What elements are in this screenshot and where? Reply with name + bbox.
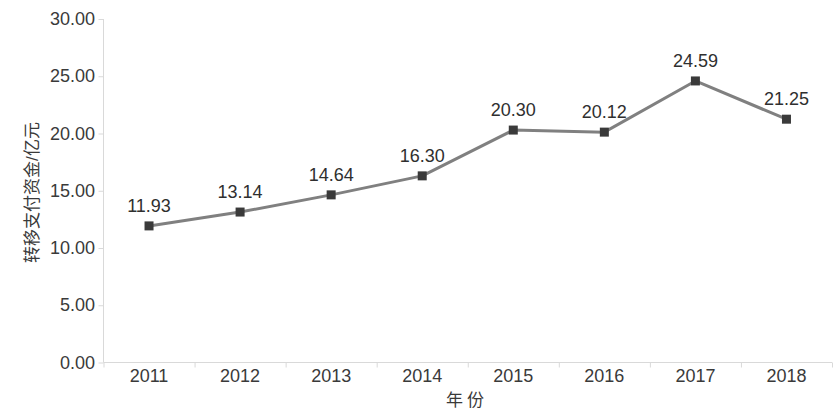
x-axis-tick-marks [104, 363, 833, 368]
data-point-label: 14.64 [285, 165, 377, 186]
y-axis-tick-marks [99, 20, 104, 364]
data-point-marker [145, 221, 154, 230]
data-point-label: 24.59 [649, 51, 741, 72]
data-point-label: 21.25 [740, 89, 832, 110]
data-point-label: 13.14 [194, 182, 286, 203]
data-point-label: 16.30 [376, 146, 468, 167]
data-point-marker [418, 171, 427, 180]
data-point-marker [600, 128, 609, 137]
data-point-label: 20.12 [558, 102, 650, 123]
data-point-marker [236, 208, 245, 217]
data-point-marker [509, 126, 518, 135]
data-point-marker [327, 190, 336, 199]
data-point-marker [782, 115, 791, 124]
data-point-marker [691, 76, 700, 85]
line-chart: 转移支付资金/亿元 0.005.0010.0015.0020.0025.0030… [0, 0, 833, 412]
data-point-label: 11.93 [103, 196, 195, 217]
data-point-label: 20.30 [467, 100, 559, 121]
